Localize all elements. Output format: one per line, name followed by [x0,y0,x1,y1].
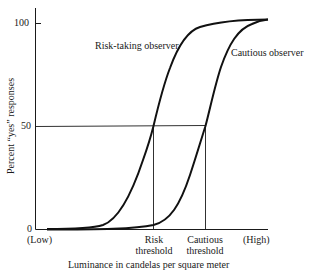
cautious-threshold-label-line1: Cautious [182,234,228,245]
x-tick-label-high: (High) [243,234,270,245]
fifty-percent-line [36,126,206,127]
y-tick-label-0: 0 [27,223,32,234]
y-tick-label-50: 50 [21,120,31,131]
x-axis-label: Luminance in candelas per square meter [68,259,229,270]
cautious-threshold-label-line2: threshold [182,245,228,256]
risk-threshold-label-line1: Risk [133,234,175,245]
x-tick-label-cautious-threshold: Cautious threshold [182,234,228,256]
y-tick-label-100: 100 [14,17,29,28]
y-axis-label: Percent “yes” responses [5,78,16,174]
x-tick-label-risk-threshold: Risk threshold [133,234,175,256]
risk-taking-curve-label: Risk-taking observer [95,40,179,51]
x-tick-label-low: (Low) [27,234,52,245]
cautious-curve-label: Cautious observer [231,47,304,58]
risk-threshold-label-line2: threshold [133,245,175,256]
